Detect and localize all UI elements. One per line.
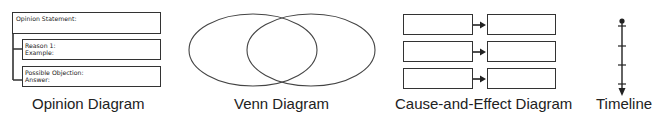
timeline-graphic [0,0,660,127]
timeline-label: Timeline [596,95,652,113]
